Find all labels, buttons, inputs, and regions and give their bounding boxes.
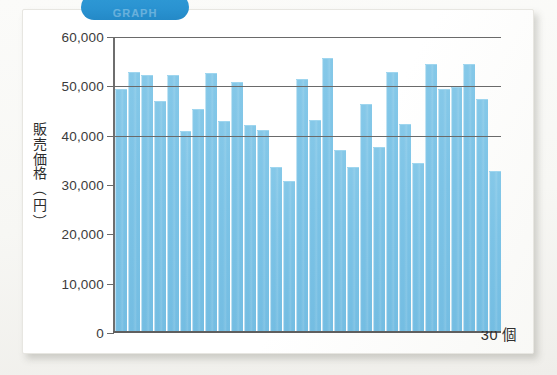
y-axis-title-unit-open: （ [33,179,48,201]
y-axis-title-char-3: 価 [29,152,51,167]
y-axis-tick-mark [107,234,114,235]
grid-line [113,37,501,38]
y-axis-title-unit-close: ） [33,210,48,232]
y-axis-tick-label: 40,000 [62,128,105,143]
y-axis-title: 販 売 価 格 （ 円 ） [29,122,51,230]
bar [360,104,372,331]
bar [231,82,243,331]
grid-line [113,136,501,137]
bar [115,89,127,331]
bar [412,163,424,331]
bar [205,73,217,331]
bar [373,147,385,331]
bar [399,124,411,331]
bar [489,171,501,331]
y-axis-tick-mark [107,333,114,334]
y-axis-tick-label: 30,000 [62,178,105,193]
bar [347,167,359,331]
bar [425,64,437,331]
y-axis-tick-label: 50,000 [62,79,105,94]
bar [257,130,269,331]
bar [438,89,450,331]
bar [218,121,230,331]
y-axis-tick-label: 20,000 [62,227,105,242]
figure-card: GRAPH 販 売 価 格 （ 円 ） 60,00050,00040,00030… [22,9,534,354]
y-axis-tick-mark [107,185,114,186]
bar [451,87,463,331]
bar [270,167,282,331]
bar [128,72,140,331]
bar [309,120,321,331]
y-axis-tick-label: 10,000 [62,276,105,291]
y-axis-tick-label: 0 [96,326,104,341]
plot-area: 60,00050,00040,00030,00020,00010,0000 [113,37,501,333]
bar [334,150,346,331]
bar [476,99,488,331]
bar [192,109,204,331]
bar-chart: 販 売 価 格 （ 円 ） 60,00050,00040,00030,00020… [23,10,535,355]
x-axis-line [113,331,501,333]
bar [180,131,192,331]
y-axis-title-char-1: 販 [29,122,51,137]
bar [296,79,308,331]
bar-series [115,37,501,331]
y-axis-tick-label: 60,000 [62,30,105,45]
bar [463,64,475,331]
y-axis-title-char-2: 売 [29,137,51,152]
bar [386,72,398,331]
bar [322,58,334,331]
bar [244,125,256,331]
screenshot-root: GRAPH 販 売 価 格 （ 円 ） 60,00050,00040,00030… [0,0,557,375]
grid-line [113,86,501,87]
bar [283,181,295,331]
bar [141,75,153,331]
y-axis-tick-mark [107,284,114,285]
bar [167,75,179,331]
